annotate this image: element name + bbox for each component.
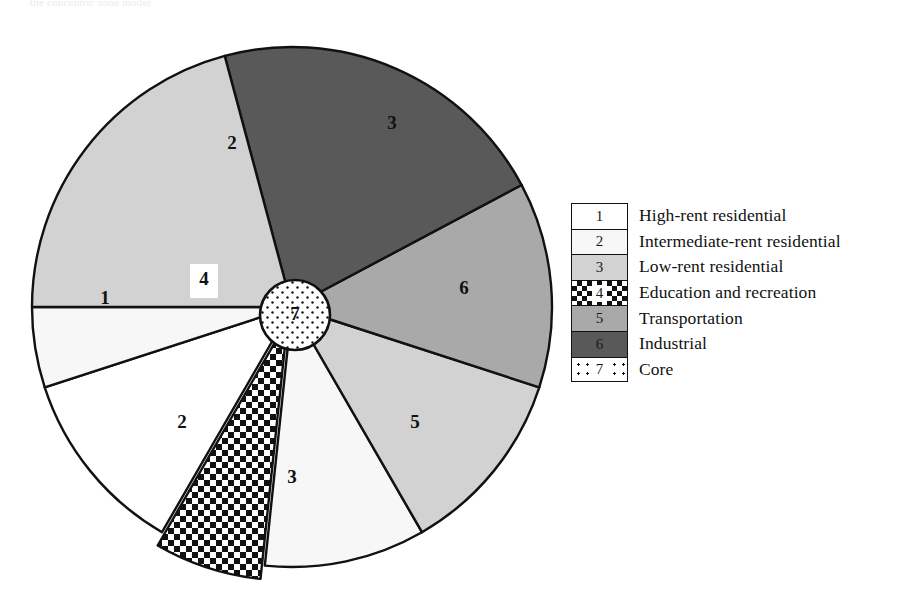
legend-item[interactable]: 2 Intermediate-rent residential bbox=[571, 229, 901, 255]
legend-item[interactable]: 1 High-rent residential bbox=[571, 203, 901, 229]
legend-swatch-number: 4 bbox=[593, 286, 607, 301]
legend-swatch-number: 6 bbox=[596, 337, 604, 352]
legend-swatch-number: 5 bbox=[596, 311, 604, 326]
legend-label-1: High-rent residential bbox=[628, 203, 786, 229]
legend-item[interactable]: 5 Transportation bbox=[571, 305, 901, 331]
wedge-label-3: 3 bbox=[387, 112, 397, 133]
legend-swatch-number: 3 bbox=[596, 260, 604, 275]
legend-item[interactable]: 6 Industrial bbox=[571, 331, 901, 357]
legend-swatch-5: 5 bbox=[571, 305, 628, 331]
legend-swatch-number: 7 bbox=[593, 362, 607, 377]
legend-swatch-6: 6 bbox=[571, 331, 628, 357]
legend-label-6: Industrial bbox=[628, 331, 707, 357]
wedge-label-6: 6 bbox=[459, 277, 469, 298]
wedge-label-1: 1 bbox=[100, 287, 110, 308]
wedge-label-4: 4 bbox=[199, 268, 209, 289]
legend-swatch-3: 3 bbox=[571, 254, 628, 280]
legend-label-7: Core bbox=[628, 357, 673, 383]
legend-swatch-4: 4 bbox=[571, 280, 628, 306]
figure-caption: the concentric zone model bbox=[30, 0, 151, 8]
legend-label-3: Low-rent residential bbox=[628, 254, 783, 280]
legend-swatch-number: 1 bbox=[596, 209, 604, 224]
wedge-label-2b: 2 bbox=[177, 411, 187, 432]
figure-canvas: the concentric zone model 12423563 7 1 H… bbox=[0, 0, 913, 612]
legend-swatch-1: 1 bbox=[571, 203, 628, 229]
wedge-label-5: 5 bbox=[410, 411, 420, 432]
legend-label-4: Education and recreation bbox=[628, 280, 816, 306]
legend-item[interactable]: 4 Education and recreation bbox=[571, 280, 901, 306]
legend-swatch-2: 2 bbox=[571, 229, 628, 255]
chart-legend: 1 High-rent residential 2 Intermediate-r… bbox=[571, 203, 901, 382]
wedge-label-3b: 3 bbox=[287, 466, 297, 487]
core-label: 7 bbox=[290, 303, 300, 324]
legend-swatch-7: 7 bbox=[571, 357, 628, 383]
legend-label-2: Intermediate-rent residential bbox=[628, 229, 841, 255]
legend-label-5: Transportation bbox=[628, 305, 743, 331]
wedge-label-2: 2 bbox=[227, 132, 237, 153]
legend-swatch-number: 2 bbox=[596, 234, 604, 249]
legend-item[interactable]: 7 Core bbox=[571, 357, 901, 383]
legend-item[interactable]: 3 Low-rent residential bbox=[571, 254, 901, 280]
